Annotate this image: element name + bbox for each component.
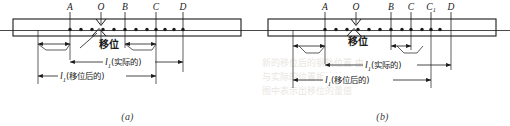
panel-b-caption: (b) bbox=[255, 111, 510, 122]
gap-dimensions bbox=[38, 44, 156, 50]
point-label-C1-subscript: 1 bbox=[433, 6, 436, 13]
panel-b-drawing: A O B C C1 D 移位 bbox=[255, 0, 510, 126]
svg-text:l1(移位后的): l1(移位后的) bbox=[60, 70, 105, 83]
displacement-label: 移位 bbox=[99, 38, 119, 50]
displacement-kink bbox=[92, 19, 106, 36]
dim-actual-qualifier: (实际的) bbox=[371, 60, 402, 70]
panel-a-drawing: A O B C D 移位 bbox=[0, 0, 255, 126]
point-label-A: A bbox=[66, 2, 73, 12]
dim-displaced-qualifier: (移位后的) bbox=[331, 75, 370, 85]
displacement-label: 移位 bbox=[348, 35, 368, 47]
displacement-kink bbox=[347, 19, 361, 36]
station-ticks bbox=[325, 12, 451, 30]
point-label-B: B bbox=[388, 2, 394, 12]
point-label-O: O bbox=[98, 2, 105, 12]
station-ticks bbox=[70, 12, 183, 30]
svg-text:l1(实际的): l1(实际的) bbox=[365, 59, 402, 72]
dim-displaced-qualifier: (移位后的) bbox=[66, 71, 105, 81]
svg-text:l1(移位后的): l1(移位后的) bbox=[325, 74, 370, 87]
point-label-C: C bbox=[408, 2, 415, 12]
point-label-O: O bbox=[353, 2, 360, 12]
point-label-B: B bbox=[122, 2, 128, 12]
figure-rail-displacement: 新的移位后的钢轨位置 由此 与实际的位置相比较 图中表示出移位的量值 bbox=[0, 0, 510, 126]
panel-b: A O B C C1 D 移位 bbox=[255, 0, 510, 126]
point-label-A: A bbox=[321, 2, 328, 12]
dim-actual-qualifier: (实际的) bbox=[111, 57, 142, 67]
svg-text:l1(实际的): l1(实际的) bbox=[105, 56, 142, 69]
point-label-C1: C1 bbox=[426, 2, 435, 13]
dimension-l-displaced: l1(移位后的) bbox=[293, 73, 431, 87]
panel-a: A O B C D 移位 bbox=[0, 0, 255, 126]
displacement-callout bbox=[80, 33, 97, 48]
panel-a-caption: (a) bbox=[0, 111, 255, 122]
point-labels: A O B C C1 D bbox=[321, 2, 454, 13]
point-label-D: D bbox=[179, 2, 187, 12]
dimension-l-displaced: l1(移位后的) bbox=[38, 69, 156, 83]
point-label-C: C bbox=[153, 2, 160, 12]
dimension-l-actual: l1(实际的) bbox=[325, 58, 451, 72]
dimension-l-actual: l1(实际的) bbox=[70, 55, 183, 69]
point-label-D: D bbox=[447, 2, 455, 12]
gap-dimensions bbox=[293, 46, 423, 53]
point-labels: A O B C D bbox=[66, 2, 186, 12]
